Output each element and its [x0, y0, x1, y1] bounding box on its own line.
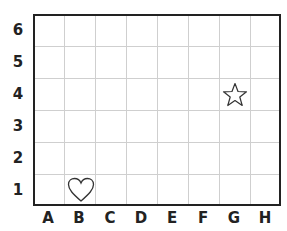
col-label-d: D — [131, 210, 151, 226]
row-label-2: 2 — [10, 150, 26, 166]
grid-line — [35, 46, 279, 47]
col-label-c: C — [100, 210, 120, 226]
grid-line — [35, 110, 279, 111]
row-label-3: 3 — [10, 118, 26, 134]
col-label-f: F — [193, 210, 213, 226]
col-label-b: B — [69, 210, 89, 226]
row-label-5: 5 — [10, 54, 26, 70]
star-icon — [222, 82, 248, 108]
heart-icon — [67, 177, 95, 203]
row-label-4: 4 — [10, 86, 26, 102]
grid-line — [35, 78, 279, 79]
row-label-1: 1 — [10, 182, 26, 198]
col-label-e: E — [162, 210, 182, 226]
grid-line — [35, 142, 279, 143]
col-label-g: G — [224, 210, 244, 226]
col-label-a: A — [38, 210, 58, 226]
row-label-6: 6 — [10, 22, 26, 38]
col-label-h: H — [255, 210, 275, 226]
grid-line — [35, 174, 279, 175]
